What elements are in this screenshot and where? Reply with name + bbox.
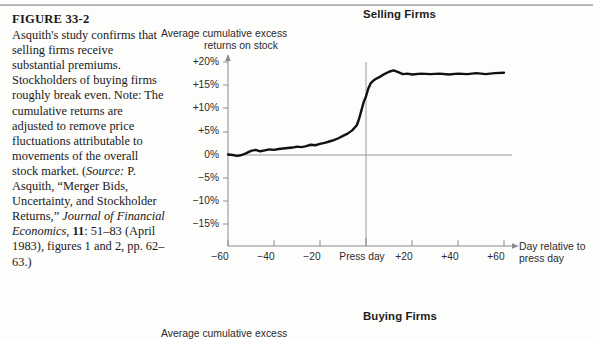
ytick-label-20: +20% [177,56,219,67]
y-axis-label-buying: Average cumulative excess [161,328,341,339]
x-axis-label-line1: Day relative to [519,241,585,252]
xtick-label-neg40: −40 [246,251,286,262]
chart-title-selling: Selling Firms [363,8,436,20]
caption-body: Asquith's study confirms that selling fi… [12,28,164,178]
y-tick-marks [223,62,228,224]
figure-caption: FIGURE 33-2 Asquith's study confirms tha… [12,12,167,270]
xtick-label-pos20: +20 [384,251,424,262]
ytick-label-10: +10% [177,102,219,113]
source-label: Source: [86,164,124,178]
x-axis-label-line2: press day [519,253,564,264]
figure-number: FIGURE 33-2 [12,12,167,27]
chart-title-buying: Buying Firms [363,310,437,322]
y-axis-label-buying-line1: Average cumulative excess [161,328,287,339]
figure-caption-text: Asquith's study confirms that selling fi… [12,28,167,270]
y-axis-label-line2: returns on stock [161,40,321,52]
x-axis-arrow [512,243,519,249]
ytick-label-0: 0% [177,149,219,160]
ytick-label-neg10: −10% [177,195,219,206]
x-tick-marks [228,238,504,246]
source-volume: 11 [69,224,84,238]
xtick-label-pos40: +40 [430,251,470,262]
y-axis-label-line1: Average cumulative excess [161,28,287,39]
y-axis-label-selling: Average cumulative excess returns on sto… [161,28,321,53]
y-axis-arrow [225,54,231,61]
ytick-label-neg5: −5% [177,172,219,183]
xtick-label-neg60: −60 [200,251,240,262]
xtick-label-pos60: +60 [476,251,516,262]
x-axis-label-selling: Day relative to press day [519,241,585,266]
chart-selling-firms: Selling Firms Average cumulative excess … [167,8,587,288]
page-top-rule [0,4,593,6]
ytick-label-15: +15% [177,79,219,90]
ytick-label-neg15: −15% [177,218,219,229]
chart-buying-firms: Buying Firms Average cumulative excess [167,300,587,339]
figure-page: FIGURE 33-2 Asquith's study confirms tha… [0,0,593,339]
ytick-label-5: +5% [177,125,219,136]
caption-source: (Source: P. Asquith, “Merger Bids, Uncer… [12,164,165,269]
